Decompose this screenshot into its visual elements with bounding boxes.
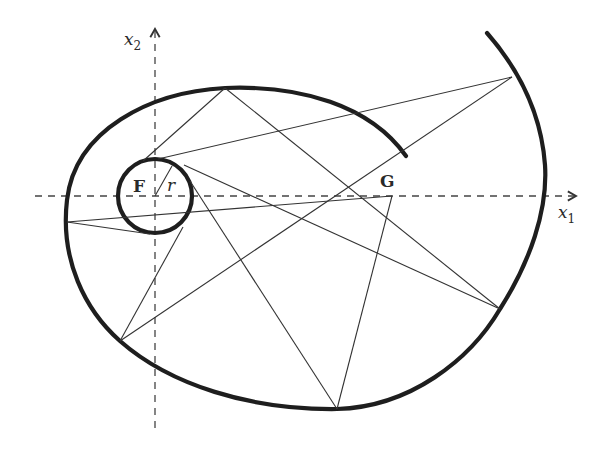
reflected-rays <box>67 77 512 409</box>
x2-axis-label: x2 <box>124 29 141 53</box>
x1-axis-label: x1 <box>558 202 575 226</box>
ray <box>190 181 337 409</box>
radius-label: r <box>167 175 176 195</box>
ray <box>120 227 183 341</box>
point-F-label: F <box>133 176 145 196</box>
ray <box>120 77 512 341</box>
ray <box>67 196 392 222</box>
ray <box>337 196 392 409</box>
ray <box>184 165 500 309</box>
x2-axis-label-sub: 2 <box>134 39 142 53</box>
x1-axis-label-main: x <box>558 202 568 222</box>
x2-axis-label-main: x <box>124 29 134 49</box>
spiral-reflector-curve <box>66 33 546 409</box>
x1-axis-label-sub: 1 <box>568 212 576 226</box>
diagram-canvas: F G r x1 x2 <box>0 0 603 455</box>
point-G-label: G <box>380 171 395 191</box>
